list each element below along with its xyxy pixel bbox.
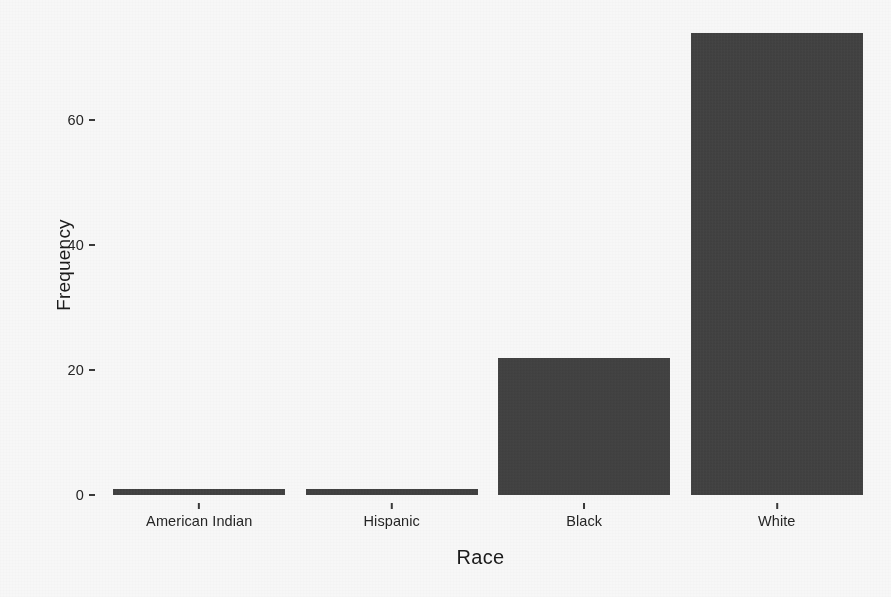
y-axis-tick-label: 0: [76, 487, 84, 503]
x-axis-tick-mark: [583, 503, 585, 509]
bar-chart-figure: Frequency 0204060 American IndianHispani…: [0, 0, 891, 597]
y-axis-tick-label: 40: [67, 237, 84, 253]
x-axis-tick: White: [758, 495, 796, 529]
bar: [691, 33, 863, 495]
plot-area: [103, 14, 873, 495]
bar: [498, 358, 670, 495]
x-axis-tick: American Indian: [146, 495, 252, 529]
y-axis-tick: 40: [67, 237, 103, 253]
x-axis-tick-label: Black: [566, 513, 602, 529]
y-axis-tick: 20: [67, 362, 103, 378]
x-axis-tick-mark: [776, 503, 778, 509]
x-axis-tick-label: White: [758, 513, 796, 529]
y-axis-tick-mark: [89, 244, 95, 246]
y-axis-tick: 60: [67, 112, 103, 128]
x-axis-title-wrap: Race: [0, 546, 891, 569]
x-axis-tick-label: Hispanic: [364, 513, 420, 529]
y-axis-tick: 0: [76, 487, 103, 503]
x-axis-tick: Black: [566, 495, 602, 529]
y-axis-tick-mark: [89, 494, 95, 496]
y-axis-tick-label: 60: [67, 112, 84, 128]
y-axis-tick-mark: [89, 119, 95, 121]
x-axis-tick-label: American Indian: [146, 513, 252, 529]
x-axis-tick-mark: [391, 503, 393, 509]
y-axis-tick-label: 20: [67, 362, 84, 378]
x-axis-tick: Hispanic: [364, 495, 420, 529]
y-axis-ticks: 0204060: [0, 0, 103, 597]
y-axis-tick-mark: [89, 369, 95, 371]
x-axis-title: Race: [457, 546, 505, 568]
x-axis-tick-mark: [198, 503, 200, 509]
